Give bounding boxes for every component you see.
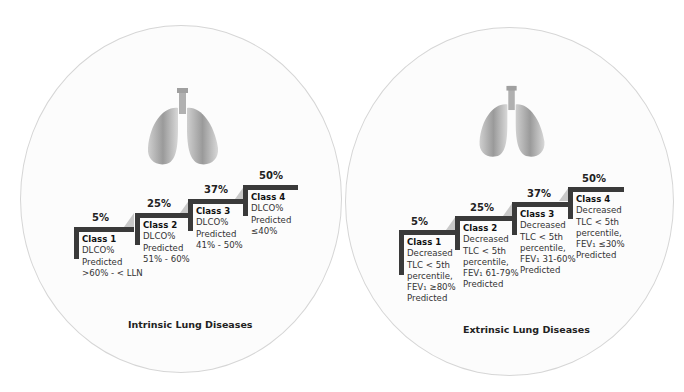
percent-label: 5%	[411, 216, 428, 227]
percent-label: 5%	[92, 212, 109, 223]
step-bar	[135, 213, 192, 218]
percent-label: 37%	[527, 188, 551, 199]
percent-label: 37%	[204, 184, 228, 195]
extrinsic-title: Extrinsic Lung Diseases	[463, 324, 590, 335]
step-bar	[455, 216, 514, 221]
step-riser	[399, 230, 404, 275]
percent-label: 50%	[582, 173, 606, 184]
step-bar	[399, 230, 456, 235]
class-label: Class 4 DLCO%Predicted≤40%	[251, 192, 291, 237]
class-label: Class 1 DecreasedTLC < 5thpercentile,FEV…	[407, 237, 456, 305]
step-riser	[74, 227, 79, 259]
step-bar	[512, 202, 571, 207]
step-riser	[135, 213, 140, 245]
percent-label: 25%	[470, 202, 494, 213]
step-bar	[568, 187, 624, 192]
step-bar	[243, 185, 298, 190]
class-label: Class 2 DecreasedTLC < 5thpercentile,FEV…	[463, 223, 519, 291]
step-riser	[512, 202, 517, 235]
step-ramp	[124, 213, 134, 227]
percent-label: 50%	[259, 170, 283, 181]
step-riser	[455, 216, 460, 250]
class-label: Class 1 DLCO%Predicted>60% - < LLN	[82, 234, 143, 279]
class-label: Class 2 DLCO%Predicted51% - 60%	[143, 220, 190, 265]
step-bar	[188, 199, 246, 204]
step-riser	[243, 185, 248, 216]
class-label: Class 4 DecreasedTLC < 5thpercentile,FEV…	[576, 194, 625, 262]
lungs-icon	[142, 88, 224, 168]
class-label: Class 3 DLCO%Predicted41% - 50%	[196, 206, 243, 251]
class-label: Class 3 DecreasedTLC < 5thpercentile,FEV…	[520, 209, 576, 277]
step-riser	[568, 187, 573, 219]
step-riser	[188, 199, 193, 231]
percent-label: 25%	[147, 198, 171, 209]
step-bar	[74, 227, 134, 232]
intrinsic-title: Intrinsic Lung Diseases	[128, 319, 252, 330]
lungs-icon	[474, 84, 550, 162]
